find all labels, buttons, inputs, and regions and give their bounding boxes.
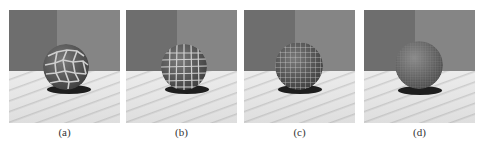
- panel-b: [126, 10, 237, 123]
- textured-sphere: [43, 44, 89, 90]
- caption-d: (d): [364, 126, 475, 138]
- panel-d: [364, 10, 475, 123]
- panel-a: [9, 10, 120, 123]
- textured-sphere: [161, 44, 207, 90]
- panel-c: [244, 10, 355, 123]
- textured-sphere: [395, 41, 443, 89]
- caption-c: (c): [244, 126, 355, 138]
- caption-b: (b): [126, 126, 237, 138]
- textured-sphere: [275, 42, 323, 90]
- caption-a: (a): [9, 126, 120, 138]
